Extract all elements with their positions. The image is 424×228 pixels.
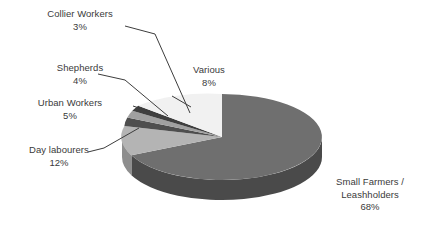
slice-label-day-labourers-name: Day labourers: [0, 144, 118, 157]
slice-label-farmers-percent: 68%: [318, 201, 422, 214]
slice-label-farmers-name-line1: Small Farmers /: [318, 176, 422, 189]
slice-label-various-name: Various: [163, 64, 255, 77]
slice-label-shepherds-name: Shepherds: [26, 62, 134, 75]
slice-label-day-labourers-percent: 12%: [0, 157, 118, 170]
pie-top-face: [121, 94, 322, 180]
slice-label-various-percent: 8%: [163, 77, 255, 90]
slice-label-various: Various 8%: [163, 64, 255, 89]
slice-label-collier-workers-percent: 3%: [22, 21, 138, 34]
slice-label-collier-workers: Collier Workers 3%: [22, 8, 138, 33]
slice-label-urban-workers: Urban Workers 5%: [10, 97, 130, 122]
slice-label-urban-workers-name: Urban Workers: [10, 97, 130, 110]
slice-label-day-labourers: Day labourers 12%: [0, 144, 118, 169]
slice-label-urban-workers-percent: 5%: [10, 110, 130, 123]
slice-label-farmers: Small Farmers / Leashholders 68%: [318, 176, 422, 214]
slice-label-collier-workers-name: Collier Workers: [22, 8, 138, 21]
slice-label-shepherds-percent: 4%: [26, 75, 134, 88]
pie-chart: Collier Workers 3% Shepherds 4% Urban Wo…: [0, 0, 424, 228]
slice-label-farmers-name-line2: Leashholders: [318, 189, 422, 202]
slice-label-shepherds: Shepherds 4%: [26, 62, 134, 87]
